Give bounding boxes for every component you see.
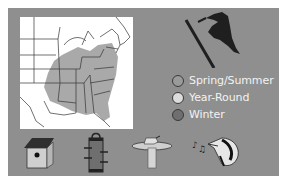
year-round-swatch-icon (172, 92, 184, 104)
winter-swatch-icon (172, 109, 184, 121)
woodpecker-silhouette-icon (184, 8, 248, 68)
legend-item-year-round: Year-Round (172, 89, 274, 106)
legend-label: Spring/Summer (189, 74, 274, 87)
legend-item-spring-summer: Spring/Summer (172, 72, 274, 89)
us-map-icon (20, 17, 133, 129)
legend-label: Winter (189, 108, 225, 121)
birdbath-icon (130, 134, 174, 174)
spring-summer-swatch-icon (172, 75, 184, 87)
season-legend: Spring/Summer Year-Round Winter (172, 72, 274, 123)
legend-label: Year-Round (189, 91, 249, 104)
svg-text:♪: ♪ (192, 140, 198, 150)
birdhouse-icon (22, 136, 56, 174)
range-map (20, 17, 133, 129)
feeder-icon (84, 132, 108, 180)
bird-song-icon: ♪ ♫ (192, 134, 242, 174)
legend-item-winter: Winter (172, 106, 274, 123)
svg-text:♫: ♫ (198, 144, 206, 154)
